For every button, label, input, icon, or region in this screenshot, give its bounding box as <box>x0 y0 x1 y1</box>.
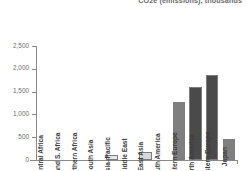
y-axis-tick-label: 2,000 <box>13 64 29 71</box>
bar-category-label: E. and S. Africa <box>55 133 62 170</box>
bar-slot: South America <box>154 46 171 160</box>
y-axis-tick-mark <box>32 92 36 93</box>
bar-category-label: Northern Africa <box>72 133 79 170</box>
bar-slot: Asia–Pacific <box>104 46 121 160</box>
y-axis-tick-label: 500 <box>18 133 29 140</box>
bar-slot: Japan <box>221 46 238 160</box>
bar <box>223 139 236 160</box>
y-axis-tick-mark <box>32 160 36 161</box>
bar <box>139 152 152 160</box>
x-axis-line <box>30 160 238 161</box>
bar <box>106 155 119 160</box>
bar-chart: CO2e (emissions), thousands 05001,0001,5… <box>0 0 246 170</box>
x-axis-endcap <box>237 160 238 164</box>
bar-category-label: Central Africa <box>39 136 46 171</box>
bar <box>206 75 219 160</box>
y-axis-tick-mark <box>32 46 36 47</box>
bar <box>173 102 186 160</box>
y-axis-tick-mark <box>32 114 36 115</box>
bar-series: Central AfricaE. and S. AfricaNorthern A… <box>37 46 238 160</box>
bar <box>189 87 202 160</box>
bar-category-label: South America <box>156 134 163 170</box>
y-axis-tick-mark <box>32 137 36 138</box>
bar-slot: Central Africa <box>37 46 54 160</box>
y-axis-tick-label: 0 <box>25 156 29 163</box>
bar-slot: Eastern Europe <box>171 46 188 160</box>
y-axis-tick-mark <box>32 69 36 70</box>
bar-slot: Middle East <box>120 46 137 160</box>
bar-category-label: Middle East <box>122 139 129 170</box>
chart-title: CO2e (emissions), thousands <box>138 0 242 5</box>
bar-slot: East Asia <box>137 46 154 160</box>
bar-slot: South Asia <box>87 46 104 160</box>
y-axis-tick-label: 2,500 <box>13 42 29 49</box>
bar-category-label: South Asia <box>89 140 96 170</box>
bar-slot: Western Europe <box>204 46 221 160</box>
bar-slot: North America <box>187 46 204 160</box>
y-axis-tick-label: 1,000 <box>13 110 29 117</box>
bar-slot: E. and S. Africa <box>54 46 71 160</box>
bar-category-label: Asia–Pacific <box>106 138 113 170</box>
y-axis-tick-label: 1,500 <box>13 87 29 94</box>
bar-slot: Northern Africa <box>70 46 87 160</box>
